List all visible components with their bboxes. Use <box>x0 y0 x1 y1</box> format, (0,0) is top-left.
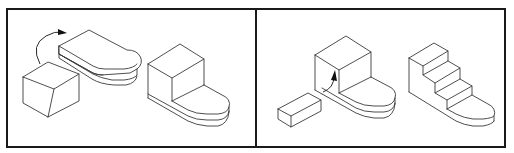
assembly-diagram <box>0 0 514 153</box>
right-panel <box>278 36 495 127</box>
cube-shape <box>23 62 79 117</box>
assembled-stair-block-shape <box>409 43 495 126</box>
insertion-arrow-icon <box>323 70 337 92</box>
rounded-slab-shape <box>59 30 141 85</box>
rectangular-bar-shape <box>278 93 321 127</box>
rotation-arrow-icon <box>36 29 67 64</box>
cube-on-slab-shape <box>315 36 396 118</box>
left-panel <box>23 29 230 126</box>
assembled-step-block-shape <box>148 44 230 126</box>
diagram-frame <box>7 9 505 147</box>
